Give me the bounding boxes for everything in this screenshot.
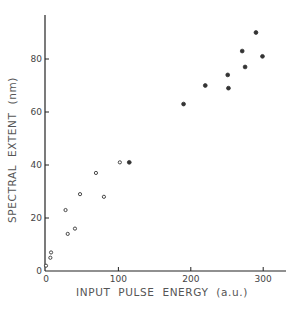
x-tick-label: 0 (43, 274, 49, 284)
filled-data-point (127, 160, 131, 164)
filled-data-point (261, 54, 265, 58)
x-tick-label: 100 (110, 274, 127, 284)
open-data-point (44, 264, 47, 267)
open-data-point (73, 227, 76, 230)
open-data-point (64, 208, 67, 211)
x-ticks: 0100200300 (43, 267, 272, 284)
open-data-point (118, 161, 121, 164)
filled-data-point (203, 84, 207, 88)
y-tick-label: 0 (36, 266, 42, 276)
scatter-chart: 020406080 0100200300 INPUT PULSE ENERGY … (0, 0, 295, 311)
filled-data-point (227, 86, 231, 90)
filled-data-point (240, 49, 244, 53)
data-points (44, 31, 264, 268)
open-data-point (94, 171, 97, 174)
x-axis-label: INPUT PULSE ENERGY (a.u.) (76, 286, 248, 298)
axes (45, 15, 286, 271)
x-tick-label: 200 (182, 274, 199, 284)
open-data-point (49, 256, 52, 259)
filled-data-point (182, 102, 186, 106)
open-data-point (66, 232, 69, 235)
filled-data-point (226, 73, 230, 77)
y-axis-label: SPECTRAL EXTENT (nm) (6, 77, 18, 223)
y-ticks: 020406080 (31, 54, 49, 276)
open-data-point (78, 193, 81, 196)
filled-data-point (243, 65, 247, 69)
x-tick-label: 300 (255, 274, 272, 284)
filled-data-point (254, 31, 258, 35)
y-tick-label: 40 (31, 160, 43, 170)
y-tick-label: 20 (31, 213, 43, 223)
open-data-point (49, 251, 52, 254)
y-tick-label: 80 (31, 54, 43, 64)
y-tick-label: 60 (31, 107, 43, 117)
open-data-point (102, 195, 105, 198)
